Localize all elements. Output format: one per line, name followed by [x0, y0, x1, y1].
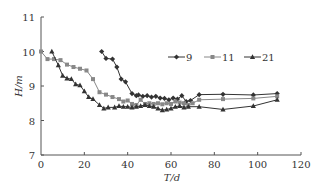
data-point-square [156, 101, 160, 105]
x-tick-label: 120 [291, 159, 310, 170]
y-tick-label: 9 [29, 81, 35, 92]
data-point-square [221, 97, 225, 101]
series-group [39, 49, 280, 112]
data-point-square [139, 98, 143, 102]
legend-item-11: 11 [204, 52, 235, 63]
data-point-square [126, 98, 130, 102]
y-tick-label: 11 [22, 12, 35, 23]
data-point-square [65, 63, 69, 67]
data-point-diamond [103, 56, 108, 61]
legend-label: 21 [262, 52, 275, 63]
data-point-diamond [158, 95, 163, 100]
data-point-square [173, 100, 177, 104]
data-point-square [98, 90, 102, 94]
data-point-square [160, 102, 164, 106]
data-point-diamond [145, 93, 150, 98]
data-point-triangle [60, 73, 65, 78]
legend-label: 9 [186, 52, 192, 63]
line-chart: 020406080100120 7891011 T/d H/m 91121 [0, 0, 321, 191]
data-point-square [169, 102, 173, 106]
x-tick-label: 60 [165, 159, 178, 170]
data-point-diamond [162, 96, 167, 101]
data-point-square [197, 98, 201, 102]
data-point-diamond [99, 49, 104, 54]
data-point-triangle [64, 76, 69, 81]
data-point-square [59, 58, 63, 62]
data-point-square [72, 65, 76, 69]
legend-item-21: 21 [244, 52, 275, 63]
data-point-square [117, 97, 121, 101]
data-point-square [46, 57, 50, 61]
data-point-square [251, 96, 255, 100]
x-tick-label: 0 [38, 159, 44, 170]
series-21 [49, 49, 280, 112]
legend-label: 11 [222, 52, 235, 63]
data-point-square [165, 101, 169, 105]
legend: 91121 [168, 52, 275, 63]
data-point-diamond [129, 91, 134, 96]
data-point-diamond [114, 64, 119, 69]
y-tick-label: 8 [29, 116, 35, 127]
x-tick-label: 40 [121, 159, 134, 170]
x-tick-label: 80 [208, 159, 221, 170]
data-point-diamond [123, 79, 128, 84]
y-tick-label: 10 [22, 47, 35, 58]
legend-item-9: 9 [168, 52, 192, 63]
data-point-diamond [153, 94, 158, 99]
series-line [52, 52, 277, 111]
data-point-triangle [49, 49, 54, 54]
data-point-square [211, 55, 215, 59]
data-point-diamond [174, 54, 179, 59]
data-point-square [39, 50, 43, 54]
y-axis-title: H/m [13, 75, 24, 98]
data-point-square [78, 67, 82, 71]
x-tick-label: 20 [78, 159, 91, 170]
x-tick-label: 100 [248, 159, 267, 170]
data-point-triangle [116, 103, 121, 108]
data-point-square [111, 95, 115, 99]
data-point-triangle [56, 63, 61, 68]
data-point-diamond [110, 56, 115, 61]
data-point-square [85, 68, 89, 72]
data-point-diamond [220, 92, 225, 97]
y-tick-label: 7 [29, 150, 35, 161]
data-point-square [191, 101, 195, 105]
data-point-square [121, 100, 125, 104]
data-point-diamond [119, 77, 124, 82]
data-point-square [91, 77, 95, 81]
data-point-diamond [149, 94, 154, 99]
x-axis-title: T/d [164, 172, 180, 183]
data-point-square [104, 93, 108, 97]
